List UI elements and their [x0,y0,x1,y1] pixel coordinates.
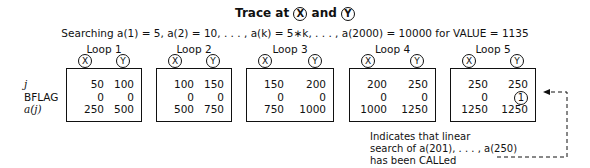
note-line: has been CALLed [370,155,517,167]
annotation-note: Indicates that linear search of a(201), … [370,131,517,167]
note-line: Indicates that linear [370,131,517,143]
note-line: search of a(201), . . . , a(250) [370,143,517,155]
